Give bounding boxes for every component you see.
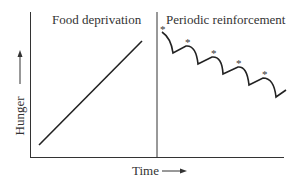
reinforcement-curve [162, 32, 286, 97]
x-axis-label: Time [132, 163, 159, 179]
x-arrow-icon [162, 169, 187, 174]
panel-title-periodic-reinforcement: Periodic reinforcement [166, 12, 285, 28]
marker-3: * [211, 47, 217, 59]
panel-title-food-deprivation: Food deprivation [52, 12, 141, 28]
deprivation-line [39, 41, 142, 145]
y-arrow-icon [18, 50, 23, 84]
y-axis-label: Hunger [12, 91, 28, 141]
marker-1: * [160, 23, 166, 35]
marker-2: * [185, 36, 191, 48]
marker-5: * [262, 68, 268, 80]
marker-4: * [236, 57, 242, 69]
